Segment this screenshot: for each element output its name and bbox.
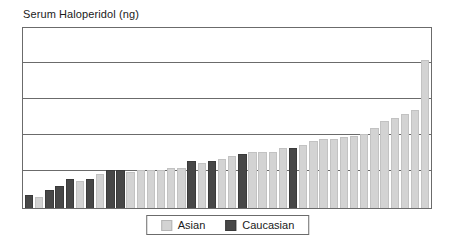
asian-swatch-icon	[161, 220, 172, 231]
bar-28-asian	[299, 145, 307, 208]
bar-17-caucasian	[187, 161, 195, 208]
bar-25-asian	[269, 152, 277, 208]
bar-18-asian	[198, 163, 206, 208]
bar-24-asian	[258, 152, 266, 208]
bar-32-asian	[340, 137, 348, 208]
bar-10-caucasian	[116, 170, 124, 208]
bar-23-asian	[248, 152, 256, 208]
bar-38-asian	[401, 114, 409, 208]
bar-4-caucasian	[55, 186, 63, 208]
bar-34-asian	[360, 134, 368, 208]
bar-7-caucasian	[86, 179, 94, 208]
chart-title: Serum Haloperidol (ng)	[23, 8, 139, 20]
bar-39-asian	[411, 110, 419, 208]
chart-legend: Asian Caucasian	[146, 215, 310, 235]
bar-15-asian	[167, 168, 175, 208]
bar-2-asian	[35, 197, 43, 208]
bar-19-caucasian	[208, 161, 216, 208]
legend-label-caucasian: Caucasian	[242, 219, 294, 231]
bar-36-asian	[380, 121, 388, 208]
bar-6-asian	[76, 181, 84, 208]
bar-8-asian	[96, 174, 104, 208]
bar-12-asian	[137, 170, 145, 208]
bar-37-asian	[391, 118, 399, 209]
bar-9-caucasian	[106, 170, 114, 208]
legend-label-asian: Asian	[178, 219, 206, 231]
bar-33-asian	[350, 136, 358, 208]
bar-3-caucasian	[45, 190, 53, 208]
caucasian-swatch-icon	[225, 220, 236, 231]
bar-22-caucasian	[238, 154, 246, 208]
bar-1-caucasian	[25, 195, 33, 208]
plot-area	[22, 27, 432, 209]
bar-11-asian	[126, 172, 134, 208]
bar-14-asian	[157, 170, 165, 208]
bar-35-asian	[370, 128, 378, 208]
bar-20-asian	[218, 159, 226, 208]
bar-13-asian	[147, 170, 155, 208]
legend-entry-caucasian: Caucasian	[225, 219, 294, 231]
bar-21-asian	[228, 156, 236, 208]
legend-entry-asian: Asian	[161, 219, 206, 231]
bar-series-container	[23, 28, 431, 208]
bar-16-asian	[177, 168, 185, 208]
bar-30-asian	[319, 139, 327, 208]
bar-29-asian	[309, 141, 317, 208]
bar-26-asian	[279, 148, 287, 208]
bar-5-caucasian	[66, 179, 74, 208]
bar-chart-figure: Serum Haloperidol (ng) Asian Caucasian	[0, 0, 455, 250]
bar-27-caucasian	[289, 148, 297, 208]
bar-31-asian	[330, 139, 338, 208]
bar-40-asian	[421, 60, 429, 208]
